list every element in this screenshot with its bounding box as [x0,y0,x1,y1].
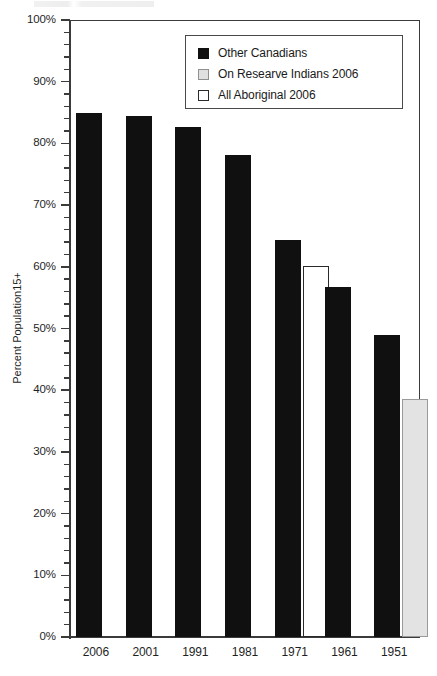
bar-1991-black [175,127,201,637]
y-axis-tick-major [61,328,70,330]
y-axis-tick-minor [64,476,70,477]
y-axis-tick-minor [64,464,70,465]
legend-item: All Aboriginal 2006 [198,85,402,105]
legend-item-label: Other Canadians [218,47,307,60]
y-axis-tick-minor [64,192,70,193]
x-axis-tick-label: 2001 [121,645,171,659]
y-axis-tick-label: 100% [4,14,56,26]
y-axis-tick-minor [64,155,70,156]
x-axis-tick-label: 1981 [220,645,270,659]
y-axis-tick-minor [64,118,70,119]
y-axis-tick-minor [64,32,70,33]
y-axis-tick-minor [64,93,70,94]
bar-1961-black [325,287,351,637]
y-axis-tick-minor [64,352,70,353]
bar-1951-black [374,335,400,637]
x-axis-tick-label: 1961 [320,645,370,659]
y-axis-tick-minor [64,130,70,131]
y-axis-tick-major [61,19,70,21]
y-axis-tick-minor [64,180,70,181]
y-axis-tick-minor [64,550,70,551]
y-axis-tick-minor [64,562,70,563]
y-axis-tick-label: 70% [4,199,56,211]
y-axis-tick-major [61,513,70,515]
bar-chart-figure: 100%90%80%70%60%50%40%30%20%10%0% Percen… [0,0,437,676]
y-axis-tick-minor [64,291,70,292]
y-axis-tick-minor [64,587,70,588]
y-axis-tick-minor [64,106,70,107]
y-axis-tick-minor [64,612,70,613]
y-axis-tick-minor [64,278,70,279]
bar-2001-black [126,116,152,637]
legend-swatch-black-icon [198,48,209,59]
y-axis-tick-label: 10% [4,569,56,581]
y-axis-tick-major [61,204,70,206]
y-axis-tick-major [61,575,70,577]
y-axis-tick-minor [64,414,70,415]
bar-2006-black [76,113,102,637]
x-axis-tick-label: 1951 [369,645,419,659]
y-axis-tick-minor [64,56,70,57]
y-axis-tick-minor [64,599,70,600]
legend-swatch-white-icon [198,90,209,101]
legend-item: Other Canadians [198,43,402,63]
legend-swatch-grey-icon [198,69,209,80]
y-axis-tick-minor [64,501,70,502]
y-axis-tick-minor [64,427,70,428]
x-axis-tick-label: 1971 [270,645,320,659]
bar-1981-black [225,155,251,637]
y-axis-tick-minor [64,624,70,625]
y-axis-tick-minor [64,217,70,218]
y-axis-tick-minor [64,69,70,70]
y-axis-tick-minor [64,315,70,316]
bar-1971-black [275,240,301,637]
legend-item-label: On Researve Indians 2006 [218,68,358,81]
y-axis-tick-label: 0% [4,631,56,643]
y-axis-tick-label: 30% [4,446,56,458]
legend-item: On Researve Indians 2006 [198,64,402,84]
y-axis-tick-minor [64,365,70,366]
y-axis-title: Percent Population15+ [11,238,23,418]
y-axis-tick-minor [64,525,70,526]
y-axis-tick-minor [64,340,70,341]
y-axis-tick-minor [64,439,70,440]
y-axis-tick-minor [64,538,70,539]
chart-legend: Other CanadiansOn Researve Indians 2006A… [185,35,403,109]
legend-item-label: All Aboriginal 2006 [218,89,316,102]
y-axis-spine [69,20,71,639]
x-axis-tick-label: 1991 [170,645,220,659]
y-axis-tick-minor [64,241,70,242]
y-axis-tick-minor [64,254,70,255]
y-axis-tick-minor [64,402,70,403]
bar-1951-grey [402,399,428,637]
y-axis-tick-label: 20% [4,508,56,520]
y-axis-tick-minor [64,303,70,304]
y-axis-tick-major [61,451,70,453]
x-axis-tick-label: 2006 [71,645,121,659]
y-axis-tick-major [61,81,70,83]
y-axis-tick-major [61,389,70,391]
y-axis-tick-major [61,636,70,638]
y-axis-tick-minor [64,377,70,378]
y-axis-tick-minor [64,488,70,489]
y-axis-tick-minor [64,44,70,45]
y-axis-tick-major [61,143,70,145]
y-axis-tick-minor [64,229,70,230]
y-axis-tick-label: 90% [4,76,56,88]
y-axis-tick-label: 80% [4,137,56,149]
y-axis-tick-major [61,266,70,268]
y-axis-tick-minor [64,167,70,168]
